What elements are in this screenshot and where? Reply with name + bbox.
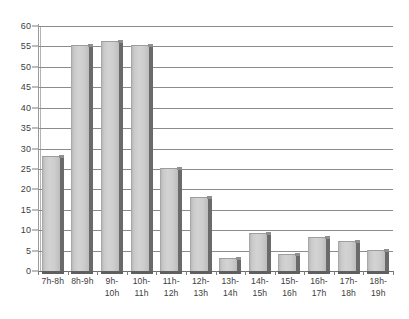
bar-top-cap (325, 236, 330, 239)
bar-slot (278, 26, 295, 271)
x-axis-tick-mark (304, 271, 305, 275)
bar-base-shadow (160, 271, 182, 274)
bar[interactable] (219, 258, 237, 271)
bar-top-cap (118, 40, 123, 43)
bar[interactable] (190, 197, 208, 272)
x-axis-tick-label: 9h- 10h (97, 276, 127, 299)
bar-base-shadow (278, 271, 300, 274)
bar[interactable] (42, 156, 60, 271)
x-axis-tick-label: 11h- 12h (156, 276, 186, 299)
x-axis-tick-label: 18h- 19h (363, 276, 393, 299)
bar-slot (367, 26, 384, 271)
bar-slot (131, 26, 148, 271)
bar[interactable] (249, 233, 267, 271)
x-axis-labels: 7h-8h8h-9h9h- 10h10h- 11h11h- 12h12h- 13… (38, 276, 394, 318)
x-axis-tick-mark (334, 271, 335, 275)
x-axis-tick-label: 10h- 11h (127, 276, 157, 299)
x-axis-tick-label: 7h-8h (38, 276, 68, 288)
bar[interactable] (101, 41, 119, 271)
bar-base-shadow (308, 271, 330, 274)
bar-top-cap (295, 253, 300, 256)
bar-slot (190, 26, 207, 271)
bar-base-shadow (338, 271, 360, 274)
bar-top-cap (88, 44, 93, 47)
bar-top-cap (266, 232, 271, 235)
bar-base-shadow (101, 271, 123, 274)
bar-base-shadow (42, 271, 64, 274)
x-axis-tick-mark (156, 271, 157, 275)
bar[interactable] (278, 254, 296, 271)
x-axis-tick-label: 12h- 13h (186, 276, 216, 299)
bar-base-shadow (249, 271, 271, 274)
x-axis-tick-mark (363, 271, 364, 275)
x-axis-tick-label: 17h- 18h (334, 276, 364, 299)
bar-chart: 051015202530354045505560 7h-8h8h-9h9h- 1… (0, 0, 409, 319)
bar-base-shadow (367, 271, 389, 274)
x-axis-tick-label: 15h- 16h (275, 276, 305, 299)
bar[interactable] (338, 241, 356, 271)
x-axis-tick-mark (216, 271, 217, 275)
x-axis-tick-label: 8h-9h (68, 276, 98, 288)
plot-area: 051015202530354045505560 (38, 26, 393, 271)
x-axis-tick-label: 16h- 17h (304, 276, 334, 299)
x-axis-tick-mark (186, 271, 187, 275)
bar[interactable] (160, 168, 178, 271)
bar-top-cap (177, 167, 182, 170)
x-axis-tick-mark (393, 271, 394, 275)
bar-slot (42, 26, 59, 271)
bar-slot (101, 26, 118, 271)
bar[interactable] (308, 237, 326, 271)
bar-top-cap (355, 240, 360, 243)
x-axis-tick-label: 13h- 14h (216, 276, 246, 299)
bar[interactable] (131, 45, 149, 271)
bar-top-cap (148, 44, 153, 47)
x-axis-tick-mark (127, 271, 128, 275)
x-axis-tick-mark (68, 271, 69, 275)
bar-top-cap (384, 249, 389, 252)
bar-base-shadow (131, 271, 153, 274)
bar-base-shadow (190, 271, 212, 274)
bar-top-cap (59, 155, 64, 158)
bar-base-shadow (71, 271, 93, 274)
x-axis-tick-mark (97, 271, 98, 275)
bar-slot (71, 26, 88, 271)
x-axis-tick-mark (275, 271, 276, 275)
x-axis-tick-label: 14h- 15h (245, 276, 275, 299)
bar-slot (338, 26, 355, 271)
bar-base-shadow (219, 271, 241, 274)
x-axis-tick-mark (38, 271, 39, 275)
bar-top-cap (207, 196, 212, 199)
bar[interactable] (367, 250, 385, 271)
bar-slot (308, 26, 325, 271)
bar-slot (219, 26, 236, 271)
bar-slot (249, 26, 266, 271)
bar-slot (160, 26, 177, 271)
bar[interactable] (71, 45, 89, 271)
bar-top-cap (236, 257, 241, 260)
bars (38, 26, 393, 271)
x-axis-tick-mark (245, 271, 246, 275)
